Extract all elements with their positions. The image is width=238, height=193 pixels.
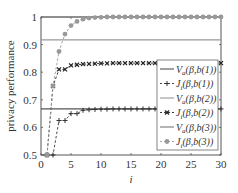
- data-point-marker: [189, 15, 194, 20]
- data-point-marker: [147, 15, 152, 20]
- data-point-marker: [51, 84, 56, 89]
- data-point-marker: [123, 15, 128, 20]
- x-tick-label: 0: [38, 158, 44, 170]
- data-point-marker: [129, 15, 134, 20]
- data-point-marker: [45, 153, 50, 158]
- legend: Va(β,b(1))Ji(β,b(1))Va(β,b(2))Ji(β,b(2))…: [157, 60, 218, 150]
- data-point-marker: [63, 118, 68, 123]
- x-tick-label: 30: [216, 158, 228, 170]
- x-tick-label: 15: [126, 158, 138, 170]
- data-point-marker: [69, 111, 74, 116]
- data-point-marker: [69, 23, 74, 28]
- data-point-marker: [93, 15, 98, 20]
- x-tick-label: 5: [68, 158, 74, 170]
- data-point-marker: [123, 106, 128, 111]
- data-point-marker: [81, 17, 86, 22]
- data-point-marker: [195, 15, 200, 20]
- data-point-marker: [219, 15, 224, 20]
- y-axis-label: privacy performance: [4, 40, 16, 131]
- data-point-marker: [183, 15, 188, 20]
- data-point-marker: [165, 15, 170, 20]
- data-point-marker: [153, 15, 158, 20]
- data-point-marker: [141, 15, 146, 20]
- data-point-marker: [75, 19, 80, 24]
- data-point-marker: [135, 15, 140, 20]
- data-point-marker: [87, 107, 92, 112]
- data-point-marker: [63, 32, 68, 37]
- x-axis-label: i: [129, 173, 132, 185]
- data-point-marker: [147, 106, 152, 111]
- data-point-marker: [57, 118, 62, 123]
- data-point-marker: [111, 15, 116, 20]
- data-point-marker: [165, 139, 170, 144]
- data-point-marker: [105, 107, 110, 112]
- data-point-marker: [159, 15, 164, 20]
- data-point-marker: [201, 15, 206, 20]
- data-point-marker: [135, 106, 140, 111]
- y-tick-label: 0.5: [23, 149, 37, 161]
- data-point-marker: [207, 15, 212, 20]
- data-point-marker: [213, 15, 218, 20]
- data-point-marker: [105, 15, 110, 20]
- data-point-marker: [87, 16, 92, 21]
- x-tick-label: 20: [156, 158, 168, 170]
- data-point-marker: [117, 106, 122, 111]
- data-point-marker: [111, 106, 116, 111]
- y-tick-label: 0.6: [23, 121, 37, 133]
- data-point-marker: [171, 15, 176, 20]
- data-point-marker: [141, 106, 146, 111]
- data-point-marker: [75, 111, 80, 116]
- x-tick-label: 10: [96, 158, 108, 170]
- data-point-marker: [177, 15, 182, 20]
- data-point-marker: [99, 107, 104, 112]
- y-tick-label: 0.9: [23, 39, 37, 51]
- data-point-marker: [99, 15, 104, 20]
- data-point-marker: [117, 15, 122, 20]
- y-tick-label: 0.8: [23, 66, 37, 78]
- data-point-marker: [93, 107, 98, 112]
- data-point-marker: [51, 153, 56, 158]
- data-point-marker: [219, 106, 224, 111]
- y-tick-label: 0.7: [23, 94, 37, 106]
- y-tick-label: 1: [32, 11, 38, 23]
- x-tick-label: 25: [186, 158, 198, 170]
- data-point-marker: [57, 49, 62, 54]
- privacy-performance-chart: 0510152025300.50.60.70.80.91 Va(β,b(1))J…: [0, 0, 238, 193]
- data-point-marker: [129, 106, 134, 111]
